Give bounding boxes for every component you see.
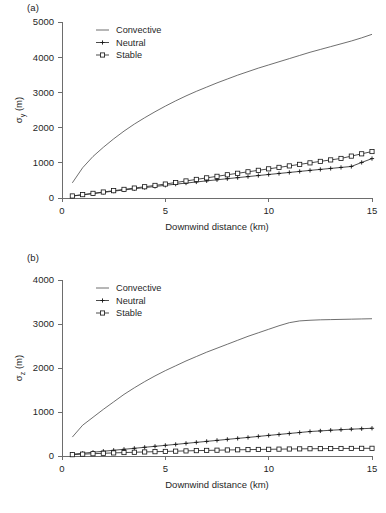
marker-square-stable bbox=[360, 446, 364, 450]
marker-plus-neutral bbox=[298, 169, 302, 173]
legend-item[interactable]: Convective bbox=[96, 283, 161, 293]
x-axis-title: Downwind distance (km) bbox=[165, 479, 268, 490]
y-tick-label: 2000 bbox=[33, 122, 54, 133]
marker-square-stable bbox=[287, 447, 291, 451]
marker-plus-neutral bbox=[246, 174, 250, 178]
marker-square-stable bbox=[277, 447, 281, 451]
marker-square-stable bbox=[91, 452, 95, 456]
marker-square-stable bbox=[163, 182, 167, 186]
marker-square-stable bbox=[194, 449, 198, 453]
marker-square-stable bbox=[308, 161, 312, 165]
marker-square-stable bbox=[184, 449, 188, 453]
series-line-convective bbox=[72, 319, 372, 437]
marker-plus-neutral bbox=[308, 429, 312, 433]
axis-spines bbox=[62, 280, 372, 456]
marker-square-stable bbox=[143, 185, 147, 189]
marker-square-stable bbox=[370, 446, 374, 450]
x-tick-label: 10 bbox=[263, 463, 274, 474]
marker-plus-neutral bbox=[339, 428, 343, 432]
marker-square-stable bbox=[318, 159, 322, 163]
marker-plus-neutral bbox=[370, 156, 374, 160]
marker-plus-neutral bbox=[318, 429, 322, 433]
marker-square-stable bbox=[91, 191, 95, 195]
x-tick-label: 15 bbox=[367, 205, 378, 216]
legend-item[interactable]: Convective bbox=[96, 25, 161, 35]
marker-square-stable bbox=[122, 450, 126, 454]
panel-b: (b) 01000200030004000051015Downwind dist… bbox=[0, 250, 386, 513]
marker-square-stable bbox=[81, 193, 85, 197]
marker-plus-neutral bbox=[174, 442, 178, 446]
marker-square-stable bbox=[143, 450, 147, 454]
y-tick-label: 5000 bbox=[33, 16, 54, 27]
x-tick-label: 0 bbox=[59, 463, 64, 474]
marker-square-stable bbox=[370, 149, 374, 153]
y-axis-title-unit: (m) bbox=[13, 355, 24, 372]
marker-square-stable bbox=[153, 450, 157, 454]
figure-container: (a) 010002000300040005000051015Downwind … bbox=[0, 0, 386, 513]
x-tick-label: 10 bbox=[263, 205, 274, 216]
legend-item-label: Stable bbox=[116, 308, 142, 318]
marker-plus-neutral bbox=[349, 427, 353, 431]
legend-item-label: Neutral bbox=[116, 38, 146, 48]
marker-plus-neutral bbox=[360, 160, 364, 164]
y-axis-title: σz (m) bbox=[13, 355, 26, 381]
legend: ConvectiveNeutralStable bbox=[96, 25, 161, 60]
marker-square-stable bbox=[339, 446, 343, 450]
marker-square-stable bbox=[215, 174, 219, 178]
marker-plus-neutral bbox=[287, 431, 291, 435]
marker-plus-neutral bbox=[318, 167, 322, 171]
marker-plus-neutral bbox=[349, 164, 353, 168]
marker-plus-neutral bbox=[287, 170, 291, 174]
y-tick-label: 1000 bbox=[33, 157, 54, 168]
marker-square-stable bbox=[267, 447, 271, 451]
marker-square-stable bbox=[174, 180, 178, 184]
marker-square-stable bbox=[236, 448, 240, 452]
marker-square-stable bbox=[174, 449, 178, 453]
marker-square-stable bbox=[318, 447, 322, 451]
marker-square-stable bbox=[267, 167, 271, 171]
marker-plus-neutral bbox=[194, 440, 198, 444]
legend-item-label: Stable bbox=[116, 50, 142, 60]
marker-square-stable bbox=[112, 189, 116, 193]
marker-plus-neutral bbox=[256, 173, 260, 177]
panel-b-plot: 01000200030004000051015Downwind distance… bbox=[0, 250, 386, 513]
marker-plus-neutral bbox=[184, 441, 188, 445]
marker-square-stable bbox=[122, 187, 126, 191]
x-axis-title: Downwind distance (km) bbox=[165, 221, 268, 232]
marker-square-stable bbox=[298, 447, 302, 451]
legend-item[interactable]: Neutral bbox=[96, 38, 146, 48]
legend-item[interactable]: Neutral bbox=[96, 296, 146, 306]
marker-square-stable bbox=[215, 448, 219, 452]
marker-plus-neutral bbox=[360, 427, 364, 431]
marker-square-stable bbox=[163, 449, 167, 453]
marker-square-stable bbox=[101, 451, 105, 455]
marker-square-stable bbox=[194, 177, 198, 181]
marker-plus-neutral bbox=[246, 435, 250, 439]
legend-item-label: Convective bbox=[116, 283, 161, 293]
marker-square-stable bbox=[225, 173, 229, 177]
marker-plus-neutral bbox=[215, 438, 219, 442]
y-tick-label: 1000 bbox=[33, 406, 54, 417]
marker-square-stable bbox=[349, 446, 353, 450]
x-tick-label: 5 bbox=[163, 205, 168, 216]
legend-item[interactable]: Stable bbox=[96, 50, 142, 60]
marker-plus-neutral bbox=[163, 443, 167, 447]
y-tick-label: 0 bbox=[49, 192, 54, 203]
marker-square-stable bbox=[298, 162, 302, 166]
marker-square-stable bbox=[277, 165, 281, 169]
marker-square-stable bbox=[225, 448, 229, 452]
y-tick-label: 4000 bbox=[33, 52, 54, 63]
series-line-stable bbox=[72, 152, 372, 196]
marker-square-stable bbox=[236, 171, 240, 175]
legend-item[interactable]: Stable bbox=[96, 308, 142, 318]
marker-plus-neutral bbox=[267, 172, 271, 176]
marker-plus-neutral bbox=[277, 432, 281, 436]
marker-square-stable bbox=[308, 447, 312, 451]
y-tick-label: 0 bbox=[49, 450, 54, 461]
marker-plus-neutral bbox=[308, 168, 312, 172]
x-tick-label: 15 bbox=[367, 463, 378, 474]
marker-square-stable bbox=[246, 448, 250, 452]
legend-square-icon bbox=[100, 311, 104, 315]
marker-square-stable bbox=[132, 450, 136, 454]
x-tick-label: 0 bbox=[59, 205, 64, 216]
